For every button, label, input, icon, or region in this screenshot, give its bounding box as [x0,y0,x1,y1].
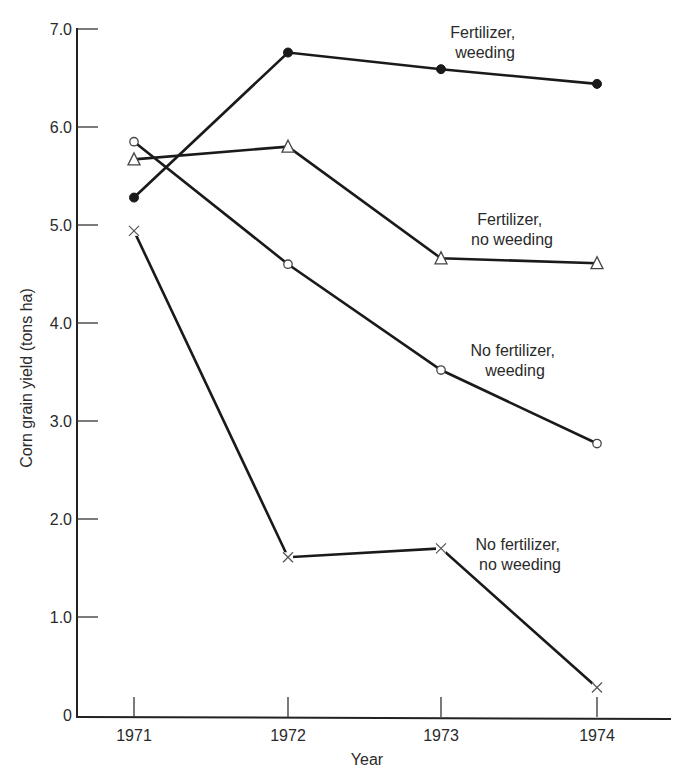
y-tick-label: 2.0 [50,511,72,528]
open-circle-marker [593,439,601,447]
series-no-fertilizer-no-weeding [129,226,602,693]
y-tick-label: 7.0 [50,21,72,38]
y-axis-ticks: 01.02.03.04.05.06.07.0 [50,21,98,724]
y-tick-label: 3.0 [50,413,72,430]
x-tick-label: 1974 [579,727,615,744]
y-tick-label: 0 [63,707,72,724]
y-tick-label: 1.0 [50,609,72,626]
filled-circle-marker [284,48,293,57]
series-label-no-fertilizer-no-weeding: No fertilizer, no weeding [476,536,565,573]
x-tick-label: 1972 [270,727,306,744]
series-line [134,142,597,444]
filled-circle-marker [130,193,139,202]
x-axis-title: Year [351,751,384,768]
y-tick-label: 4.0 [50,315,72,332]
series-line [134,231,597,688]
cross-marker [129,226,139,236]
cross-marker [592,683,602,693]
series-label-fertilizer-weeding: Fertilizer, weeding [450,24,519,61]
cross-marker [283,552,293,562]
series-label-fertilizer-no-weeding: Fertilizer, no weeding [471,211,553,248]
y-tick-label: 6.0 [50,119,72,136]
open-circle-marker [284,260,292,268]
filled-circle-marker [437,65,446,74]
x-axis-ticks: 1971197219731974 [116,697,615,744]
line-chart: 01.02.03.04.05.06.07.0 1971197219731974 … [0,0,682,777]
open-circle-marker [130,138,138,146]
x-axis [76,717,671,719]
series-label-no-fertilizer-weeding: No fertilizer, weeding [471,342,560,379]
series-fertilizer-weeding [130,48,602,202]
series-fertilizer-no-weeding [128,140,603,269]
y-axis-title: Corn grain yield (tons ha) [18,288,35,468]
series-labels: Fertilizer, weeding Fertilizer, no weedi… [450,24,564,573]
x-tick-label: 1973 [423,727,459,744]
x-tick-label: 1971 [116,727,152,744]
y-tick-label: 5.0 [50,217,72,234]
open-circle-marker [437,366,445,374]
series-no-fertilizer-weeding [130,138,601,448]
filled-circle-marker [593,79,602,88]
series-line [134,53,597,198]
cross-marker [436,543,446,553]
axes [76,28,671,719]
